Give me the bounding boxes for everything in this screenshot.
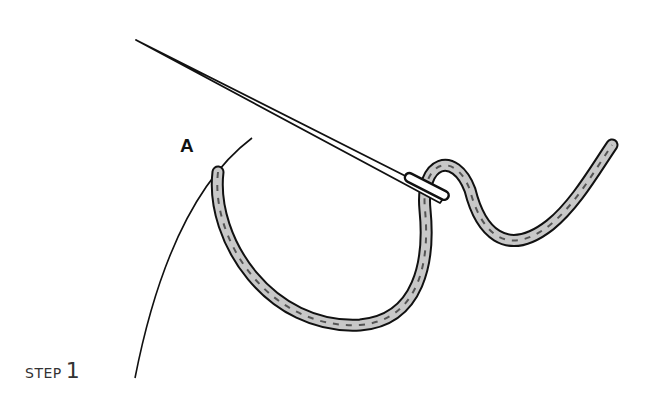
point-a-label: A bbox=[180, 135, 194, 157]
diagram-canvas: A STEP1 bbox=[0, 0, 651, 408]
step-label: STEP1 bbox=[25, 358, 80, 383]
illustration bbox=[0, 0, 651, 408]
needle bbox=[136, 40, 450, 203]
thread bbox=[217, 145, 612, 325]
step-number: 1 bbox=[66, 358, 80, 383]
step-word: STEP bbox=[25, 365, 62, 381]
